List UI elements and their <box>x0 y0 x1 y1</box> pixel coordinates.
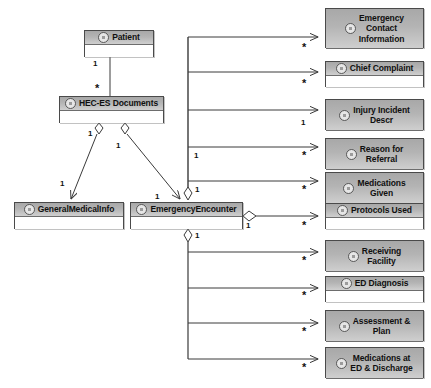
uml-class-hec-es-documents[interactable]: HEC-ES Documents <box>59 96 164 123</box>
edge-hecdocs-emergencyencounter <box>127 134 180 199</box>
uml-class-header: Emergency Contact Information <box>326 9 423 49</box>
multiplicity-label: * <box>95 85 99 91</box>
uml-class-header: Receiving Facility <box>326 241 423 272</box>
uml-class-icon <box>336 358 347 369</box>
uml-class-icon <box>341 278 352 289</box>
uml-class-icon <box>345 23 356 34</box>
multiplicity-label: * <box>302 292 306 298</box>
uml-class-body <box>131 217 242 229</box>
uml-class-header: EmergencyEncounter <box>131 203 242 217</box>
uml-class-name: Injury Incident Descr <box>353 105 410 126</box>
multiplicity-label: * <box>302 80 306 86</box>
uml-class-header: Medications at ED & Discharge <box>326 348 423 379</box>
uml-class-icon <box>337 205 348 216</box>
multiplicity-label: * <box>302 364 306 370</box>
uml-class-emergencyencounter[interactable]: EmergencyEncounter <box>130 202 243 229</box>
multiplicity-label: 1 <box>60 180 64 188</box>
uml-class-header: Patient <box>85 31 153 45</box>
multiplicity-label: 1 <box>301 119 305 127</box>
diamond-hecdocs-right <box>121 123 129 134</box>
uml-class-header: ED Diagnosis <box>326 277 423 291</box>
diamond-hecdocs-left <box>95 123 103 134</box>
uml-class-name: GeneralMedicalInfo <box>38 204 115 215</box>
uml-class-emergency-contact-information[interactable]: Emergency Contact Information <box>325 8 424 48</box>
uml-class-medications-at-ed-discharge[interactable]: Medications at ED & Discharge <box>325 347 424 378</box>
uml-class-icon <box>336 63 347 74</box>
uml-class-medications-given[interactable]: Medications Given <box>325 172 424 203</box>
uml-class-name: HEC-ES Documents <box>79 98 158 109</box>
uml-class-diagram-canvas: Patient HEC-ES Documents GeneralMedicalI… <box>0 0 431 388</box>
uml-class-name: Medications Given <box>357 178 405 199</box>
uml-class-icon <box>24 204 35 215</box>
uml-class-icon <box>339 110 350 121</box>
uml-class-name: Chief Complaint <box>350 63 414 74</box>
uml-class-header: Medications Given <box>326 173 423 204</box>
uml-class-name: EmergencyEncounter <box>150 204 236 215</box>
uml-class-header: GeneralMedicalInfo <box>15 203 123 217</box>
uml-class-header: Injury Incident Descr <box>326 100 423 131</box>
diamond-encounter-top <box>184 187 192 200</box>
uml-class-name: Emergency Contact Information <box>359 13 405 45</box>
multiplicity-label: * <box>302 152 306 158</box>
uml-class-body <box>60 111 163 123</box>
uml-class-icon <box>98 32 109 43</box>
uml-class-header: Reason for Referral <box>326 139 423 170</box>
uml-class-icon <box>346 149 357 160</box>
uml-class-chief-complaint[interactable]: Chief Complaint <box>325 61 424 87</box>
multiplicity-label: * <box>302 257 306 263</box>
multiplicity-label: 1 <box>155 193 159 201</box>
uml-class-icon <box>136 204 147 215</box>
diamond-encounter-bottom <box>184 229 192 242</box>
uml-class-assessment-plan[interactable]: Assessment & Plan <box>325 310 424 341</box>
multiplicity-label: 1 <box>116 142 120 150</box>
uml-class-name: Medications at ED & Discharge <box>350 353 412 374</box>
multiplicity-label: 1 <box>194 152 198 160</box>
multiplicity-label: 1 <box>195 232 199 240</box>
edge-hecdocs-generalmedicalinfo <box>71 134 97 199</box>
uml-class-body <box>326 218 423 229</box>
multiplicity-label: * <box>302 44 306 50</box>
uml-class-name: Reason for Referral <box>360 144 403 165</box>
uml-class-name: Assessment & Plan <box>353 316 410 337</box>
uml-class-name: Protocols Used <box>351 205 412 216</box>
uml-class-injury-incident-descr[interactable]: Injury Incident Descr <box>325 99 424 130</box>
multiplicity-label: 1 <box>246 222 250 230</box>
uml-class-body <box>326 76 423 87</box>
multiplicity-label: 1 <box>93 60 97 68</box>
uml-class-name: Patient <box>112 32 140 43</box>
uml-class-generalmedicalinfo[interactable]: GeneralMedicalInfo <box>14 202 124 229</box>
uml-class-icon <box>339 321 350 332</box>
multiplicity-label: 1 <box>88 130 92 138</box>
uml-class-receiving-facility[interactable]: Receiving Facility <box>325 240 424 271</box>
uml-class-header: Chief Complaint <box>326 62 423 76</box>
diamond-encounter-right <box>243 211 256 221</box>
uml-class-ed-diagnosis[interactable]: ED Diagnosis <box>325 276 424 302</box>
uml-class-protocols-used[interactable]: Protocols Used <box>325 203 424 229</box>
multiplicity-label: * <box>302 328 306 334</box>
uml-class-body <box>15 217 123 229</box>
uml-class-name: ED Diagnosis <box>355 278 409 289</box>
multiplicity-label: 1 <box>195 186 199 194</box>
multiplicity-label: * <box>302 222 306 228</box>
multiplicity-label: * <box>302 186 306 192</box>
uml-class-body <box>326 291 423 302</box>
uml-class-header: Protocols Used <box>326 204 423 218</box>
uml-class-icon <box>65 98 76 109</box>
uml-class-name: Receiving Facility <box>362 246 401 267</box>
uml-class-patient[interactable]: Patient <box>84 30 154 57</box>
uml-class-body <box>85 45 153 57</box>
uml-class-header: HEC-ES Documents <box>60 97 163 111</box>
uml-class-header: Assessment & Plan <box>326 311 423 342</box>
uml-class-icon <box>348 251 359 262</box>
uml-class-icon <box>343 183 354 194</box>
uml-class-reason-for-referral[interactable]: Reason for Referral <box>325 138 424 169</box>
